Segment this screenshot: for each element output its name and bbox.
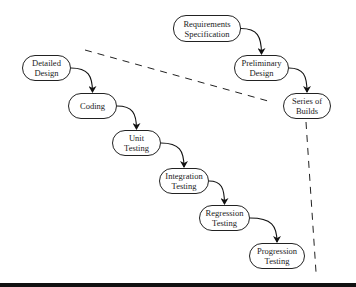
node-req: RequirementsSpecification [173, 15, 241, 42]
node-coding: Coding [68, 93, 117, 119]
node-label-line2: Builds [292, 106, 322, 116]
node-label-line2: Testing [165, 181, 202, 191]
arrow-detailed-to-coding [71, 68, 93, 92]
node-label-line2: Testing [257, 256, 297, 266]
node-detailed: DetailedDesign [22, 55, 71, 81]
node-unit: UnitTesting [112, 130, 161, 156]
arrow-unit-to-integration [161, 143, 184, 167]
node-label-line1: Integration [165, 171, 202, 181]
node-integration: IntegrationTesting [159, 168, 209, 194]
node-regression: RegressionTesting [199, 205, 250, 231]
node-label-line2: Specification [183, 29, 230, 39]
node-label-line1: Regression [206, 208, 244, 218]
node-builds: Series ofBuilds [283, 93, 331, 119]
node-label-line1: Requirements [183, 19, 230, 29]
node-label-line2: Testing [124, 143, 149, 153]
node-label-line2: Design [241, 68, 281, 78]
diagram-connectors [0, 0, 356, 287]
arrow-regression-to-progression [250, 218, 277, 242]
node-label-line2: Testing [206, 218, 244, 228]
node-prelim: PreliminaryDesign [234, 55, 289, 81]
dashed-line-1 [306, 122, 316, 272]
dashed-boundary-lines [85, 50, 316, 272]
node-label-line1: Progression [257, 246, 297, 256]
node-label-line2: Design [32, 68, 61, 78]
arrow-prelim-to-builds [289, 68, 307, 92]
node-label-line1: Detailed [32, 58, 61, 68]
node-label-line1: Coding [80, 101, 105, 111]
arrow-coding-to-unit [117, 106, 137, 129]
arrow-integration-to-regression [209, 181, 225, 204]
bottom-border [0, 283, 356, 287]
node-progression: ProgressionTesting [249, 243, 305, 269]
node-label-line1: Preliminary [241, 58, 281, 68]
node-label-line1: Unit [124, 133, 149, 143]
arrow-req-to-prelim [241, 29, 262, 55]
node-label-line1: Series of [292, 96, 322, 106]
